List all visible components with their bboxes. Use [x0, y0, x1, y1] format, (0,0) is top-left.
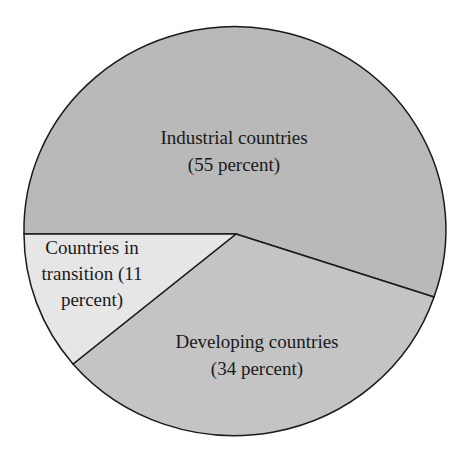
label-industrial-line2: (55 percent) [188, 154, 280, 176]
pie-chart: Industrial countries (55 percent) Develo… [0, 0, 465, 468]
label-transition-line3: percent) [61, 289, 123, 311]
label-developing-line1: Developing countries [175, 331, 338, 352]
label-developing-line2: (34 percent) [211, 358, 303, 380]
label-industrial-line1: Industrial countries [160, 127, 307, 148]
label-transition-line2: transition (11 [41, 263, 142, 285]
label-transition-line1: Countries in [45, 237, 139, 258]
